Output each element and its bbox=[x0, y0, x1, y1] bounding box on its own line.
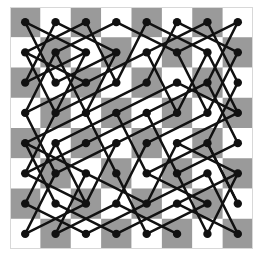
square-dot bbox=[234, 18, 242, 26]
square-dot bbox=[173, 18, 181, 26]
square-dot bbox=[203, 78, 211, 86]
square-dot bbox=[112, 230, 120, 238]
square-dot bbox=[203, 230, 211, 238]
knights-tour-board bbox=[10, 7, 253, 249]
square-dot bbox=[112, 78, 120, 86]
square-dot bbox=[142, 199, 150, 207]
square-dot bbox=[142, 139, 150, 147]
square-dot bbox=[51, 199, 59, 207]
square-dot bbox=[51, 139, 59, 147]
square-dot bbox=[82, 109, 90, 117]
square-dot bbox=[51, 169, 59, 177]
square-dot bbox=[82, 230, 90, 238]
square-dot bbox=[82, 78, 90, 86]
square-dot bbox=[142, 48, 150, 56]
square-dot bbox=[142, 230, 150, 238]
square-dot bbox=[82, 139, 90, 147]
square-dot bbox=[82, 199, 90, 207]
square-dot bbox=[203, 169, 211, 177]
square-dot bbox=[142, 18, 150, 26]
square-dot bbox=[112, 169, 120, 177]
square-dot bbox=[234, 78, 242, 86]
square-dot bbox=[21, 230, 29, 238]
square-dot bbox=[142, 169, 150, 177]
square-dot bbox=[21, 139, 29, 147]
square-dot bbox=[82, 169, 90, 177]
square-dot bbox=[173, 169, 181, 177]
square-dot bbox=[51, 48, 59, 56]
square-dot bbox=[112, 139, 120, 147]
square-dot bbox=[173, 199, 181, 207]
square-dot bbox=[51, 18, 59, 26]
square-dot bbox=[173, 230, 181, 238]
square-dot bbox=[173, 109, 181, 117]
square-dot bbox=[112, 18, 120, 26]
square-dot bbox=[112, 109, 120, 117]
square-dot bbox=[173, 139, 181, 147]
square-dot bbox=[203, 199, 211, 207]
square-dot bbox=[142, 78, 150, 86]
square-dot bbox=[21, 48, 29, 56]
square-dot bbox=[21, 199, 29, 207]
board-squares bbox=[10, 7, 253, 249]
square-dot bbox=[21, 109, 29, 117]
square-dot bbox=[51, 230, 59, 238]
square-dot bbox=[203, 139, 211, 147]
square-dot bbox=[82, 18, 90, 26]
square-dot bbox=[21, 78, 29, 86]
square-dot bbox=[51, 78, 59, 86]
square-dot bbox=[203, 48, 211, 56]
board-svg bbox=[10, 7, 253, 249]
square-dot bbox=[234, 199, 242, 207]
square-dot bbox=[234, 230, 242, 238]
square-dot bbox=[173, 48, 181, 56]
square-dot bbox=[234, 109, 242, 117]
square-dot bbox=[51, 109, 59, 117]
square-dot bbox=[173, 78, 181, 86]
square-dot bbox=[203, 109, 211, 117]
square-dot bbox=[142, 109, 150, 117]
square-dot bbox=[112, 199, 120, 207]
square-dot bbox=[21, 169, 29, 177]
square-dot bbox=[234, 139, 242, 147]
square-dot bbox=[234, 169, 242, 177]
square-dot bbox=[21, 18, 29, 26]
square-dot bbox=[112, 48, 120, 56]
square-dot bbox=[203, 18, 211, 26]
square-dot bbox=[234, 48, 242, 56]
square-dot bbox=[82, 48, 90, 56]
